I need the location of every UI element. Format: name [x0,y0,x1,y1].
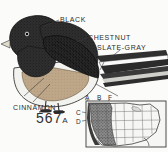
map-label-f: F [108,95,112,102]
bird-illustration-plate: BLACK CHESTNUT SLATE-GRAY CINNAMON 567A … [0,0,168,152]
map-label-b: B [97,95,101,102]
map-label-c: C [76,110,81,117]
plate-number-value: 567 [36,110,62,126]
plate-number-suffix: A [62,116,68,125]
label-slate-gray: SLATE-GRAY [97,44,146,51]
label-chestnut: CHESTNUT [88,34,131,41]
map-label-d: D [76,119,81,126]
map-label-a: A [85,95,89,102]
plate-number: 567A [36,110,68,126]
label-black: BLACK [60,16,86,23]
